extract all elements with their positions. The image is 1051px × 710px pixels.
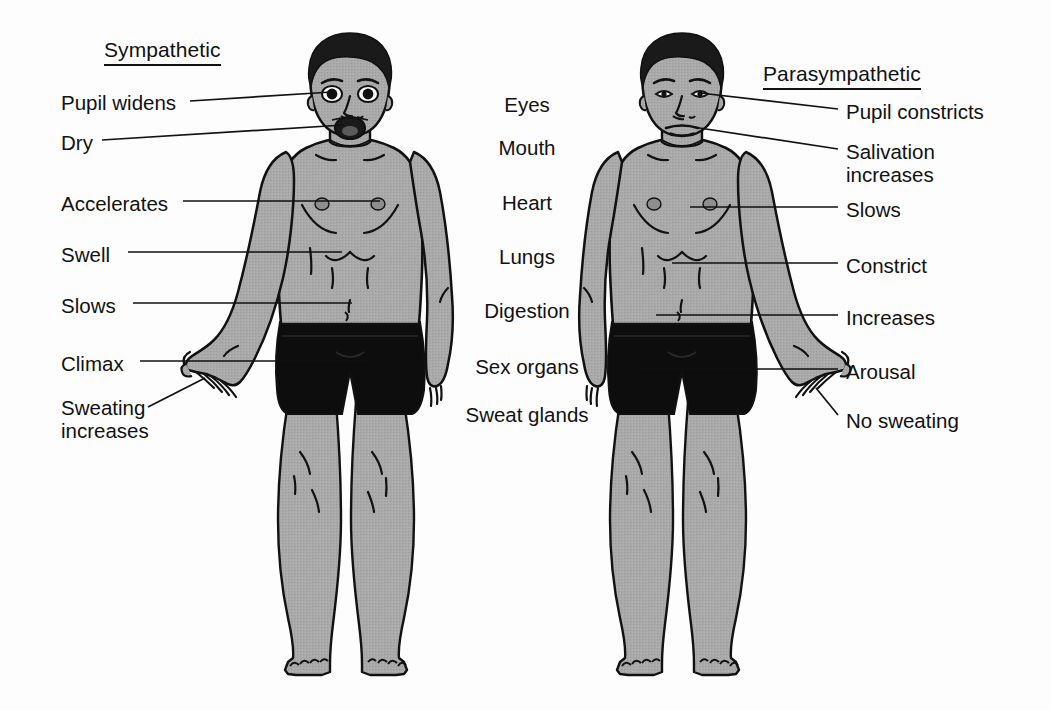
- panel-title-sympathetic: Sympathetic: [104, 38, 221, 66]
- label-climax: Climax: [61, 352, 124, 375]
- figure-parasympathetic: [579, 33, 850, 675]
- label-sweating-increases: Sweating increases: [61, 396, 149, 442]
- leader-dry: [102, 125, 344, 140]
- label-arousal: Arousal: [846, 360, 916, 383]
- label-no-sweating: No sweating: [846, 409, 959, 432]
- label-constrict: Constrict: [846, 254, 927, 277]
- organ-label-heart: Heart: [502, 191, 552, 214]
- label-dry: Dry: [61, 131, 93, 154]
- label-salivation-increases: Salivation increases: [846, 140, 935, 186]
- organ-label-eyes: Eyes: [504, 93, 550, 116]
- label-accelerates: Accelerates: [61, 192, 168, 215]
- label-increases: Increases: [846, 306, 935, 329]
- figure-sympathetic: [182, 33, 453, 675]
- label-pupil-constricts: Pupil constricts: [846, 100, 984, 123]
- organ-label-sex-organs: Sex organs: [475, 355, 579, 378]
- leader-no-sweating: [816, 388, 838, 415]
- organ-label-mouth: Mouth: [499, 136, 556, 159]
- label-slows-parasympathetic: Slows: [846, 198, 901, 221]
- label-pupil-widens: Pupil widens: [61, 91, 176, 114]
- label-swell: Swell: [61, 243, 110, 266]
- diagram-canvas: Sympathetic Parasympathetic Pupil widens…: [0, 0, 1051, 710]
- organ-label-lungs: Lungs: [499, 245, 555, 268]
- organ-label-digestion: Digestion: [484, 299, 569, 322]
- panel-title-parasympathetic: Parasympathetic: [763, 62, 921, 90]
- label-slows-sympathetic: Slows: [61, 294, 116, 317]
- organ-label-sweat-glands: Sweat glands: [465, 403, 588, 426]
- leader-sweating-increases: [148, 378, 205, 407]
